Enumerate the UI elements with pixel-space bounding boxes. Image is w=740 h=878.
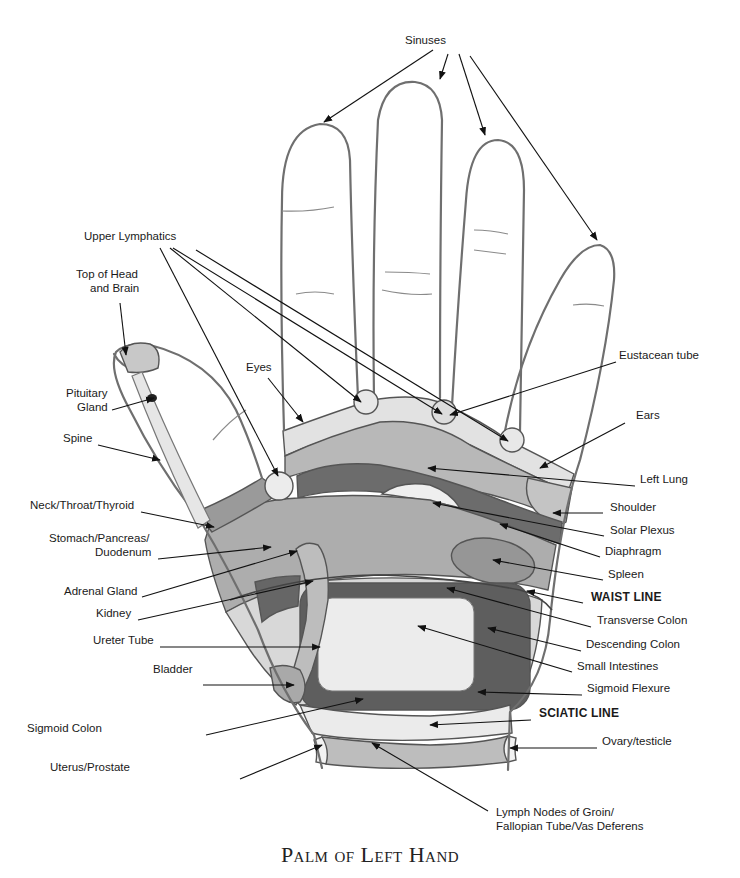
label-sigmoid-colon: Sigmoid Colon — [27, 721, 102, 735]
label-neck-throat: Neck/Throat/Thyroid — [30, 498, 134, 512]
label-ovary-testicle: Ovary/testicle — [602, 734, 672, 748]
label-eyes: Eyes — [246, 360, 272, 374]
label-top-of-head: Top of Head — [76, 267, 138, 281]
arrow-upper-lymphatics — [173, 248, 442, 414]
label-sciatic-line: SCIATIC LINE — [539, 706, 619, 720]
label-solar-plexus: Solar Plexus — [610, 523, 675, 537]
label-descending-colon: Descending Colon — [586, 637, 680, 651]
label-duodenum: Duodenum — [95, 545, 151, 559]
label-uterus-prostate: Uterus/Prostate — [50, 760, 130, 774]
arrow-sinuses — [459, 54, 485, 135]
label-upper-lymphatics: Upper Lymphatics — [84, 229, 176, 243]
label-shoulder: Shoulder — [610, 500, 656, 514]
arrow-uterus-prostate — [240, 745, 322, 779]
arrow-upper-lymphatics — [170, 248, 361, 402]
arrow-sinuses — [440, 54, 448, 79]
label-transverse-colon: Transverse Colon — [597, 613, 687, 627]
label-bladder: Bladder — [153, 662, 193, 676]
label-gland: Gland — [77, 400, 108, 414]
label-eustacean-tube: Eustacean tube — [619, 348, 699, 362]
label-diaphragm: Diaphragm — [605, 544, 661, 558]
arrow-sinuses — [470, 56, 597, 240]
label-and-brain: and Brain — [90, 281, 139, 295]
label-spleen: Spleen — [608, 567, 644, 581]
diagram-title: Palm of Left Hand — [0, 842, 740, 868]
arrow-eyes — [268, 378, 303, 422]
label-stomach: Stomach/Pancreas/ — [49, 531, 149, 545]
label-ureter-tube: Ureter Tube — [93, 633, 154, 647]
label-small-intestines: Small Intestines — [577, 659, 658, 673]
label-lymph-nodes-1: Lymph Nodes of Groin/ — [496, 805, 614, 819]
label-left-lung: Left Lung — [640, 472, 688, 486]
label-spine: Spine — [63, 431, 92, 445]
arrow-sinuses — [324, 50, 433, 122]
label-lymph-nodes-2: Fallopian Tube/Vas Deferens — [496, 819, 643, 833]
label-kidney: Kidney — [96, 606, 131, 620]
label-sinuses: Sinuses — [405, 33, 446, 47]
hand-reflexology-diagram: SinusesUpper LymphaticsTop of Headand Br… — [0, 0, 740, 878]
label-ears: Ears — [636, 408, 660, 422]
label-pituitary: Pituitary — [66, 386, 108, 400]
arrow-ears — [540, 423, 625, 468]
label-waist-line: WAIST LINE — [591, 590, 662, 604]
label-sigmoid-flexure: Sigmoid Flexure — [587, 681, 670, 695]
arrow-eustacean-tube — [450, 362, 616, 415]
label-adrenal: Adrenal Gland — [64, 584, 138, 598]
